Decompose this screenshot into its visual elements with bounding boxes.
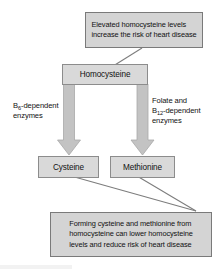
node-cysteine-label: Cysteine [53, 163, 84, 172]
label-b6-line-1: B6-dependent [13, 101, 58, 110]
callout-top-line-2: increase the risk of heart disease [91, 30, 196, 39]
callout-bottom-text: Forming cysteine and methionine from hom… [64, 219, 197, 250]
callout-bottom: Forming cysteine and methionine from hom… [50, 212, 212, 257]
callout-top: Elevated homocysteine levels increase th… [85, 12, 203, 48]
callout-top-line-1: Elevated homocysteine levels [91, 20, 186, 29]
label-folate-b12-dependent-enzymes: Folate and B12-dependent enzymes [152, 96, 220, 127]
node-methionine-label: Methionine [123, 163, 162, 172]
label-folate-line-1: B12-dependent [152, 106, 200, 115]
label-folate-line-2: enzymes [152, 116, 182, 125]
callout-bottom-line-1: Forming cysteine and methionine from [69, 219, 191, 228]
label-b12-suffix: -dependent [163, 106, 200, 115]
callout-bottom-line-2: homocysteine can lower homocysteine [69, 229, 192, 238]
callout-bottom-line-3: levels and reduce risk of heart disease [69, 240, 191, 249]
leader-methionine-to-bottom-callout [135, 174, 196, 211]
node-cysteine: Cysteine [38, 156, 99, 178]
node-homocysteine-label: Homocysteine [80, 70, 131, 79]
label-b6-suffix: -dependent [21, 101, 58, 110]
label-b12-subscript: 12 [157, 110, 163, 116]
page-edge-artifact [0, 265, 72, 269]
leader-cysteine-to-bottom-callout [69, 174, 196, 211]
node-methionine: Methionine [110, 156, 175, 178]
label-folate-line-0: Folate and [152, 96, 187, 105]
label-b6-line-2: enzymes [13, 111, 43, 120]
label-b6-dependent-enzymes: B6-dependent enzymes [13, 101, 79, 121]
label-b6-subscript: 6 [18, 105, 21, 111]
node-homocysteine: Homocysteine [62, 64, 148, 85]
homocysteine-pathway-diagram: Elevated homocysteine levels increase th… [0, 0, 224, 273]
callout-top-text: Elevated homocysteine levels increase th… [86, 20, 201, 40]
arrow-homocysteine-to-methionine [131, 84, 154, 155]
